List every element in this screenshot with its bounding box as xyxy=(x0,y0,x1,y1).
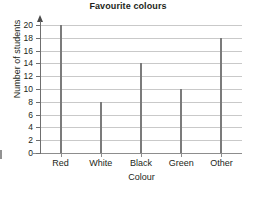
y-axis-tick-label: 16 xyxy=(11,47,33,56)
x-axis-tick xyxy=(181,153,182,157)
x-axis-category-label: Red xyxy=(38,158,84,169)
x-axis-tick xyxy=(61,153,62,157)
y-axis-tick xyxy=(36,115,41,116)
y-axis-tick-label: 6 xyxy=(11,111,33,120)
x-axis-tick xyxy=(221,153,222,157)
bar xyxy=(100,102,102,153)
x-axis-category-label: Green xyxy=(158,158,204,169)
bar xyxy=(180,89,182,153)
x-axis-category-label: Black xyxy=(118,158,164,169)
bar xyxy=(220,38,222,153)
bar xyxy=(140,63,142,153)
y-axis-tick-label: 12 xyxy=(11,72,33,81)
y-axis-tick-label: 20 xyxy=(11,21,33,30)
x-axis-tick xyxy=(141,153,142,157)
y-axis-tick-label: 2 xyxy=(11,136,33,145)
plot-area xyxy=(41,25,242,153)
y-axis-tick-label: 14 xyxy=(11,59,33,68)
y-axis-tick xyxy=(36,25,41,26)
y-axis-tick xyxy=(36,51,41,52)
y-axis-tick-label: 4 xyxy=(11,123,33,132)
x-axis-tick xyxy=(101,153,102,157)
chart-title: Favourite colours xyxy=(0,1,256,11)
y-axis-tick xyxy=(36,153,41,154)
y-axis-tick xyxy=(36,127,41,128)
x-axis-title: Colour xyxy=(41,172,242,182)
bar-chart: Favourite colours Number of students Col… xyxy=(0,0,256,201)
page-edge-artifact xyxy=(0,150,2,159)
y-axis-tick xyxy=(36,102,41,103)
y-axis-tick-label: 10 xyxy=(11,85,33,94)
y-axis-tick xyxy=(36,38,41,39)
gridline xyxy=(41,38,242,39)
bar xyxy=(60,25,62,153)
y-axis-tick-label: 8 xyxy=(11,98,33,107)
y-axis-tick-label: 0 xyxy=(11,149,33,158)
y-axis-tick-label: 18 xyxy=(11,34,33,43)
y-axis-tick xyxy=(36,89,41,90)
x-axis-category-label: Other xyxy=(198,158,244,169)
y-axis-tick xyxy=(36,63,41,64)
gridline xyxy=(41,25,242,26)
y-axis-tick xyxy=(36,76,41,77)
x-axis-category-label: White xyxy=(78,158,124,169)
y-axis-tick xyxy=(36,140,41,141)
gridline xyxy=(41,51,242,52)
